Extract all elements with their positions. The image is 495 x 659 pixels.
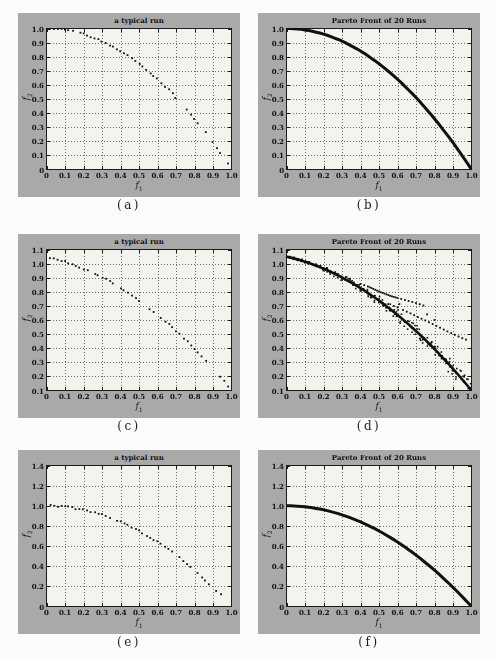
subplot-d-xlabel: f1 <box>286 401 472 413</box>
y-tick-label: 0.6 <box>259 542 284 551</box>
subplot-b-title: Pareto Front of 20 Runs <box>286 16 472 25</box>
y-tick-label: 0.7 <box>19 302 44 311</box>
y-tick-label: 0.5 <box>19 330 44 339</box>
y-tick-label: 1.0 <box>19 502 44 511</box>
y-tick-label: 0.2 <box>19 372 44 381</box>
y-tick-label: 0.4 <box>259 562 284 571</box>
y-tick-label: 1.1 <box>259 246 284 255</box>
y-tick-label: 0 <box>259 603 284 612</box>
y-tick-label: 0.1 <box>19 151 44 160</box>
y-tick-label: 0.8 <box>259 288 284 297</box>
y-tick-label: 1.0 <box>259 502 284 511</box>
y-tick-label: 1.2 <box>19 482 44 491</box>
y-tick-label: 0.9 <box>19 39 44 48</box>
subplot-b-xlabel: f1 <box>286 180 472 192</box>
y-tick-label: 0.3 <box>19 123 44 132</box>
y-tick-label: 0.1 <box>259 151 284 160</box>
subplot-f-canvas <box>286 465 472 607</box>
x-tick-label: 1.0 <box>220 392 244 401</box>
subplot-a-xlabel: f1 <box>46 180 232 192</box>
subplot-f-xlabel: f1 <box>286 617 472 629</box>
y-tick-label: 0.9 <box>259 274 284 283</box>
y-tick-label: 1.4 <box>19 462 44 471</box>
y-tick-label: 0.9 <box>259 39 284 48</box>
subplot-b-panel: Pareto Front of 20 Runs f2 f1 00.10.20.3… <box>258 13 480 197</box>
subplot-d-title: Pareto Front of 20 Runs <box>286 237 472 246</box>
y-tick-label: 0.6 <box>19 316 44 325</box>
x-tick-label: 1.0 <box>220 608 244 617</box>
subplot-f-title: Pareto Front of 20 Runs <box>286 453 472 462</box>
y-tick-label: 0.6 <box>19 81 44 90</box>
y-tick-label: 0.7 <box>259 67 284 76</box>
y-tick-label: 0.8 <box>19 288 44 297</box>
subplot-c-title: a typical run <box>46 237 232 246</box>
y-tick-label: 0.2 <box>259 582 284 591</box>
y-tick-label: 0.3 <box>259 123 284 132</box>
pareto-figure-page: a typical run f2 f1 00.10.20.30.40.50.60… <box>0 0 495 659</box>
subplot-e-title: a typical run <box>46 453 232 462</box>
y-tick-label: 0.2 <box>19 582 44 591</box>
x-tick-label: 1.0 <box>460 392 484 401</box>
y-tick-label: 0.4 <box>19 562 44 571</box>
subplot-e-xlabel: f1 <box>46 617 232 629</box>
x-tick-label: 1.0 <box>460 608 484 617</box>
y-tick-label: 0.3 <box>19 358 44 367</box>
subplot-d-caption: (d) <box>258 419 480 433</box>
subplot-d-canvas <box>286 249 472 391</box>
y-tick-label: 0.8 <box>259 522 284 531</box>
y-tick-label: 1.2 <box>259 482 284 491</box>
y-tick-label: 0.2 <box>19 137 44 146</box>
y-tick-label: 1.0 <box>259 25 284 34</box>
subplot-e-canvas <box>46 465 232 607</box>
y-tick-label: 1.0 <box>19 25 44 34</box>
y-tick-label: 0.1 <box>19 387 44 396</box>
y-tick-label: 0.5 <box>19 95 44 104</box>
y-tick-label: 0 <box>19 166 44 175</box>
y-tick-label: 0.2 <box>259 372 284 381</box>
y-tick-label: 1.4 <box>259 462 284 471</box>
subplot-f-caption: (f) <box>258 635 480 649</box>
y-tick-label: 0.6 <box>19 542 44 551</box>
y-tick-label: 1.1 <box>19 246 44 255</box>
y-tick-label: 0.4 <box>259 109 284 118</box>
y-tick-label: 0.3 <box>259 358 284 367</box>
y-tick-label: 1.0 <box>259 260 284 269</box>
y-tick-label: 0.6 <box>259 81 284 90</box>
y-tick-label: 0.1 <box>259 387 284 396</box>
y-tick-label: 0.9 <box>19 274 44 283</box>
y-tick-label: 0.8 <box>259 53 284 62</box>
subplot-b-caption: (b) <box>258 198 480 212</box>
y-tick-label: 0.4 <box>19 109 44 118</box>
y-tick-label: 0.5 <box>259 95 284 104</box>
y-tick-label: 0.6 <box>259 316 284 325</box>
y-tick-label: 0 <box>19 603 44 612</box>
subplot-a-caption: (a) <box>18 198 240 212</box>
x-tick-label: 1.0 <box>220 171 244 180</box>
y-tick-label: 0.8 <box>19 53 44 62</box>
y-tick-label: 0.7 <box>19 67 44 76</box>
subplot-e-panel: a typical run f2 f1 00.10.20.30.40.50.60… <box>18 450 240 634</box>
y-tick-label: 0 <box>259 166 284 175</box>
subplot-a-title: a typical run <box>46 16 232 25</box>
subplot-e-caption: (e) <box>18 635 240 649</box>
subplot-c-caption: (c) <box>18 419 240 433</box>
y-tick-label: 0.4 <box>259 344 284 353</box>
subplot-a-canvas <box>46 28 232 170</box>
subplot-d-panel: Pareto Front of 20 Runs f2 f1 00.10.20.3… <box>258 234 480 418</box>
subplot-f-panel: Pareto Front of 20 Runs f2 f1 00.10.20.3… <box>258 450 480 634</box>
y-tick-label: 0.8 <box>19 522 44 531</box>
x-tick-label: 1.0 <box>460 171 484 180</box>
y-tick-label: 0.5 <box>259 330 284 339</box>
y-tick-label: 0.2 <box>259 137 284 146</box>
subplot-a-panel: a typical run f2 f1 00.10.20.30.40.50.60… <box>18 13 240 197</box>
subplot-c-canvas <box>46 249 232 391</box>
y-tick-label: 1.0 <box>19 260 44 269</box>
subplot-c-xlabel: f1 <box>46 401 232 413</box>
y-tick-label: 0.4 <box>19 344 44 353</box>
subplot-b-canvas <box>286 28 472 170</box>
y-tick-label: 0.7 <box>259 302 284 311</box>
subplot-c-panel: a typical run f2 f1 00.10.20.30.40.50.60… <box>18 234 240 418</box>
